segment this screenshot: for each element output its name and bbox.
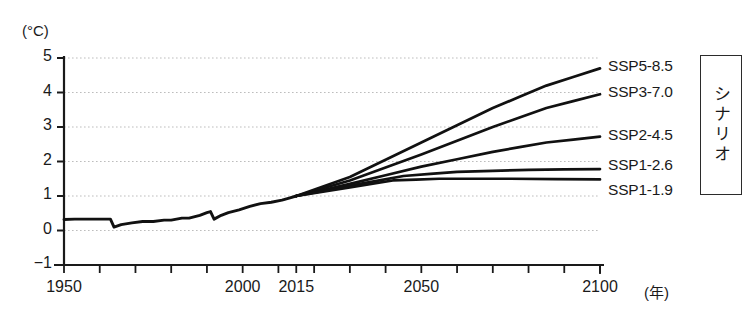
- axis-ticks: [57, 58, 600, 274]
- gridlines: [64, 58, 600, 265]
- scenario-lines: [296, 68, 600, 196]
- scenario-series-line: [296, 68, 600, 196]
- x-axis-tick-label: 2000: [219, 278, 267, 296]
- scenario-legend-box: シナリオ: [700, 55, 742, 195]
- x-axis-unit-label: (年): [644, 281, 669, 302]
- x-axis-tick-label: 1950: [40, 278, 88, 296]
- scenario-legend-box-text: シナリオ: [713, 85, 730, 165]
- series-label-ssp1-2-6: SSP1-2.6: [608, 156, 673, 174]
- y-axis-unit-label: (°C): [22, 22, 49, 39]
- y-axis-tick-label: 2: [0, 151, 52, 169]
- y-axis-tick-label: −1: [0, 254, 52, 272]
- y-axis-tick-label: 0: [0, 220, 52, 238]
- x-axis-tick-label: 2100: [576, 278, 624, 296]
- series-label-ssp2-4-5: SSP2-4.5: [608, 126, 673, 144]
- series-label-ssp3-7-0: SSP3-7.0: [608, 83, 673, 101]
- y-axis-tick-label: 1: [0, 185, 52, 203]
- series-label-ssp5-8-5: SSP5-8.5: [608, 57, 673, 75]
- historical-line: [64, 196, 296, 227]
- y-axis-tick-label: 4: [0, 82, 52, 100]
- y-axis-tick-label: 5: [0, 47, 52, 65]
- x-axis-tick-label: 2050: [397, 278, 445, 296]
- series-label-ssp1-1-9: SSP1-1.9: [608, 181, 673, 199]
- scenario-series-line: [296, 179, 600, 196]
- temperature-projection-chart: (°C) 543210−1 19502000201520502100 SSP5-…: [0, 0, 756, 323]
- historical-series-line: [64, 196, 296, 227]
- axis-lines: [54, 56, 604, 265]
- y-axis-tick-label: 3: [0, 116, 52, 134]
- x-axis-tick-label: 2015: [272, 278, 320, 296]
